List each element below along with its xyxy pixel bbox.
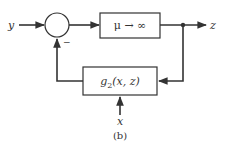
- feedback-return-arrow: [159, 25, 183, 81]
- block-diagram: y − μ → ∞ z g2(x, z) x (b): [0, 0, 230, 142]
- side-input-label-x: x: [117, 115, 124, 128]
- feedback-block-label: g2(x, z): [100, 75, 140, 90]
- junction-minus-sign: −: [63, 37, 71, 47]
- input-label-y: y: [7, 19, 15, 32]
- output-label-z: z: [209, 19, 216, 32]
- forward-block-label: μ → ∞: [114, 19, 147, 32]
- summing-junction: [45, 13, 69, 37]
- figure-caption: (b): [113, 130, 127, 141]
